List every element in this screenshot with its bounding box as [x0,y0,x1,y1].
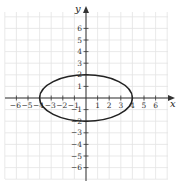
x-tick-label: 5 [142,101,147,110]
x-tick-label: 3 [118,101,123,110]
y-axis-label: y [74,3,81,14]
y-tick-label: −3 [71,128,82,137]
ellipse-graph: −6−5−4−3−2−1123456−6−5−4−3−2−1123456 x y [0,0,177,182]
x-tick-label: 2 [107,101,112,110]
x-tick-label: −5 [21,101,32,110]
x-tick-label: 6 [153,101,158,110]
y-tick-label: −6 [71,163,82,172]
x-tick-label: −3 [45,101,56,110]
y-tick-label: −4 [71,140,82,149]
x-tick-label: −2 [56,101,67,110]
y-tick-label: −5 [71,152,82,161]
y-tick-label: 6 [77,24,82,33]
y-tick-label: −1 [71,105,82,114]
y-tick-label: 3 [77,59,82,68]
y-axis-arrow-icon [83,6,89,13]
x-tick-label: 1 [95,101,100,110]
y-tick-label: 1 [77,82,82,91]
x-tick-label: −6 [10,101,21,110]
x-axis-label: x [170,98,176,109]
y-tick-label: 4 [77,47,82,56]
y-tick-label: 5 [77,36,82,45]
